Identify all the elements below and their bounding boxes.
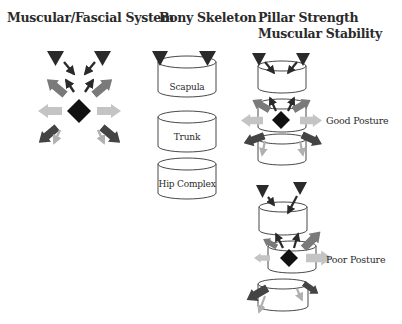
segment-label-scapula: Scapula: [158, 82, 216, 92]
good-posture-diagram: [241, 53, 325, 165]
diagram-canvas: [0, 0, 402, 324]
segment-label-trunk: Trunk: [158, 132, 216, 142]
bony-skeleton-diagram: [152, 51, 216, 199]
core-diamond-icon: [67, 99, 91, 123]
triangle-left-icon: [47, 51, 64, 66]
poor-posture-label: Poor Posture: [326, 254, 385, 265]
segment-label-hip-complex: Hip Complex: [156, 179, 218, 189]
good-posture-label: Good Posture: [326, 115, 388, 126]
muscular-fascial-diagram: [34, 51, 124, 148]
triangle-right-icon: [94, 51, 111, 66]
poor-posture-diagram: [243, 182, 332, 312]
